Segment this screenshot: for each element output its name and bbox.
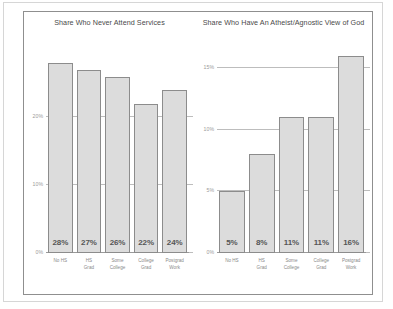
y-tick-mark-right-15 [366, 67, 370, 68]
y-tick-mark-left-20 [189, 116, 193, 117]
y-tick-label-left-20: 20% [33, 113, 43, 119]
category-label: College Grad [132, 255, 161, 281]
category-label: Some College [277, 255, 307, 281]
bar-slot: 22% [132, 36, 161, 253]
bar-value-label: 5% [226, 238, 237, 252]
bar-slot: 28% [46, 36, 75, 253]
category-label: Postgrad Work [160, 255, 189, 281]
bar[interactable]: 5% [219, 191, 245, 253]
y-tick-mark-right-0 [366, 252, 370, 253]
y-tick-mark-left-0 [189, 252, 193, 253]
y-tick-mark-right-10 [366, 129, 370, 130]
bar-value-label: 16% [343, 238, 359, 252]
bar[interactable]: 8% [249, 154, 275, 253]
category-label: Some College [103, 255, 132, 281]
category-label: HS Grad [75, 255, 104, 281]
y-tick-label-right-10: 10% [204, 126, 214, 132]
y-tick-label-left-10: 10% [33, 181, 43, 187]
bar[interactable]: 16% [338, 56, 364, 253]
plot-area-right: 0%5%10%15% 5%8%11%11%16% [217, 36, 366, 253]
y-tick-mark-left-10 [189, 184, 193, 185]
bar-slot: 8% [247, 36, 277, 253]
chart-never-attend-services: Share Who Never Attend Services 0%10%20%… [24, 12, 195, 294]
y-tick-label-right-0: 0% [207, 249, 215, 255]
bar-value-label: 11% [284, 238, 299, 252]
bar-slot: 5% [217, 36, 247, 253]
bar-value-label: 24% [167, 238, 183, 252]
category-label: No HS [46, 255, 75, 281]
plot-area-left: 0%10%20% 28%27%26%22%24% [46, 36, 189, 253]
category-labels-left: No HSHS GradSome CollegeCollege GradPost… [46, 255, 189, 281]
y-tick-mark-right-5 [366, 190, 370, 191]
bar-slot: 16% [336, 36, 366, 253]
category-label: No HS [217, 255, 247, 281]
bar[interactable]: 22% [134, 104, 159, 253]
bar[interactable]: 28% [48, 63, 73, 253]
charts-panel: Share Who Never Attend Services 0%10%20%… [23, 11, 373, 295]
chart-title-left: Share Who Never Attend Services [24, 18, 195, 27]
bar-series-left: 28%27%26%22%24% [46, 36, 189, 253]
bar-value-label: 28% [52, 238, 68, 252]
bar-series-right: 5%8%11%11%16% [217, 36, 366, 253]
bar-value-label: 26% [110, 238, 126, 252]
bar-slot: 26% [103, 36, 132, 253]
bar[interactable]: 26% [105, 77, 130, 253]
y-tick-label-right-15: 15% [204, 64, 214, 70]
category-labels-right: No HSHS GradSome CollegeCollege GradPost… [217, 255, 366, 281]
bar[interactable]: 11% [308, 117, 334, 253]
category-label: HS Grad [247, 255, 277, 281]
bar[interactable]: 11% [279, 117, 305, 253]
bar-value-label: 11% [314, 238, 329, 252]
bar-value-label: 27% [81, 238, 97, 252]
chart-atheist-agnostic-view: Share Who Have An Atheist/Agnostic View … [195, 12, 372, 294]
figure-page: Share Who Never Attend Services 0%10%20%… [0, 0, 393, 309]
category-label: Postgrad Work [336, 255, 366, 281]
bar[interactable]: 27% [77, 70, 102, 253]
bar-slot: 27% [75, 36, 104, 253]
bar-value-label: 22% [138, 238, 154, 252]
y-tick-label-right-5: 5% [207, 187, 215, 193]
category-label: College Grad [306, 255, 336, 281]
chart-title-right: Share Who Have An Atheist/Agnostic View … [195, 18, 372, 27]
bar-slot: 11% [306, 36, 336, 253]
bar-slot: 24% [160, 36, 189, 253]
bar-slot: 11% [277, 36, 307, 253]
bar-value-label: 8% [256, 238, 267, 252]
y-tick-label-left-0: 0% [36, 249, 44, 255]
bar[interactable]: 24% [162, 90, 187, 253]
